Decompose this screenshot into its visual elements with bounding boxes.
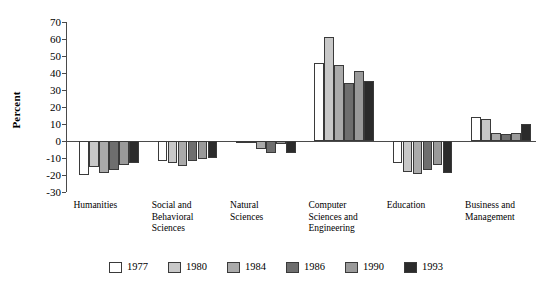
bar (501, 134, 511, 141)
y-axis-title-text: Percent (10, 91, 22, 128)
y-axis-tick-mark (62, 39, 66, 40)
y-axis-tick-label: 50 (50, 51, 61, 62)
legend-item[interactable]: 1980 (168, 262, 207, 273)
bar (481, 119, 491, 141)
y-axis-tick-mark (62, 73, 66, 74)
y-axis-tick-label: 10 (50, 119, 61, 130)
bar (236, 141, 246, 143)
bar (178, 141, 188, 166)
bar (324, 37, 334, 141)
legend-label: 1986 (304, 262, 325, 273)
y-axis-tick-label: -10 (46, 153, 61, 164)
y-axis-tick-mark (62, 56, 66, 57)
bar (471, 117, 481, 141)
legend-label: 1977 (127, 262, 148, 273)
bar (423, 141, 433, 170)
bar (79, 141, 89, 175)
x-axis-category-label: Business and Management (465, 200, 515, 223)
x-axis-category-label: Natural Sciences (230, 200, 263, 223)
y-axis-tick-label: -30 (46, 187, 61, 198)
bar (198, 141, 208, 159)
y-axis-tick-mark (62, 175, 66, 176)
bar (443, 141, 453, 173)
legend-item[interactable]: 1990 (345, 262, 384, 273)
x-axis-category-label: Social and Behavioral Sciences (152, 200, 194, 235)
legend-swatch (227, 262, 240, 273)
x-axis-category-label: Humanities (73, 200, 117, 212)
bar (354, 71, 364, 141)
legend-item[interactable]: 1977 (109, 262, 148, 273)
y-axis-tick-label: 60 (50, 34, 61, 45)
bar (158, 141, 168, 161)
bar (364, 81, 374, 141)
x-axis-category-label: Computer Sciences and Engineering (308, 200, 357, 235)
bar (413, 141, 423, 174)
y-axis-tick-label: 40 (50, 68, 61, 79)
y-axis-tick-mark (62, 22, 66, 23)
bar (109, 141, 119, 170)
bar (246, 141, 256, 143)
legend-item[interactable]: 1986 (286, 262, 325, 273)
plot-area: 706050403020100-10-20-30 (66, 22, 536, 192)
bar (188, 141, 198, 161)
bar-chart: Percent 706050403020100-10-20-30 Humanit… (0, 0, 552, 295)
legend-swatch (345, 262, 358, 273)
y-axis-tick-label: 0 (56, 136, 62, 147)
legend-swatch (168, 262, 181, 273)
bar-group (79, 22, 139, 192)
legend-swatch (404, 262, 417, 273)
y-axis-tick-label: 20 (50, 102, 61, 113)
y-axis-tick-mark (62, 124, 66, 125)
legend-item[interactable]: 1984 (227, 262, 266, 273)
bar (256, 141, 266, 149)
y-axis-tick-label: 70 (50, 17, 61, 28)
legend-swatch (286, 262, 299, 273)
bar-group (158, 22, 218, 192)
bar (286, 141, 296, 153)
bar (168, 141, 178, 163)
bar (403, 141, 413, 172)
y-axis-tick-label: 30 (50, 85, 61, 96)
legend-label: 1984 (245, 262, 266, 273)
bar-group (236, 22, 296, 192)
bar (89, 141, 99, 167)
bar (208, 141, 218, 158)
bar (266, 141, 276, 153)
bar (491, 133, 501, 142)
legend-label: 1980 (186, 262, 207, 273)
bar (433, 141, 443, 165)
bar (344, 83, 354, 141)
bar (314, 63, 324, 141)
chart-legend: 197719801984198619901993 (0, 262, 552, 273)
bar (276, 141, 286, 144)
legend-item[interactable]: 1993 (404, 262, 443, 273)
y-axis-line (66, 22, 67, 192)
bar (334, 65, 344, 141)
bar (521, 124, 531, 141)
bar (393, 141, 403, 163)
y-axis-tick-mark (62, 192, 66, 193)
bar (511, 133, 521, 142)
y-axis-tick-mark (62, 107, 66, 108)
y-axis-tick-mark (62, 90, 66, 91)
y-axis-tick-mark (62, 141, 66, 142)
legend-label: 1990 (363, 262, 384, 273)
bar-group (393, 22, 453, 192)
x-axis-category-label: Education (387, 200, 426, 212)
bar-group (471, 22, 531, 192)
y-axis-tick-mark (62, 158, 66, 159)
bar (99, 141, 109, 173)
bar (119, 141, 129, 165)
y-axis-tick-label: -20 (46, 170, 61, 181)
bar (129, 141, 139, 163)
legend-label: 1993 (422, 262, 443, 273)
legend-swatch (109, 262, 122, 273)
y-axis-title: Percent (4, 60, 28, 160)
bar-group (314, 22, 374, 192)
